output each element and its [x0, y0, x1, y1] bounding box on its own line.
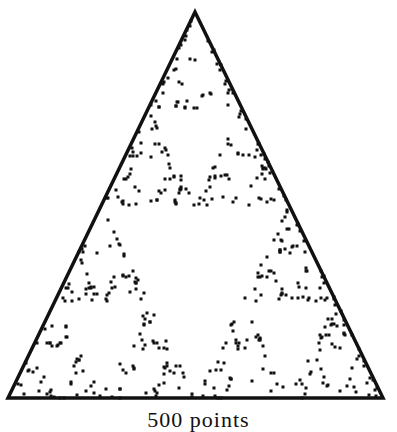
point: [270, 372, 273, 375]
point: [265, 168, 268, 171]
point: [76, 394, 79, 397]
point: [225, 342, 228, 345]
point: [132, 270, 135, 273]
point: [319, 334, 322, 337]
point: [270, 390, 273, 393]
point: [217, 361, 220, 364]
point: [319, 349, 322, 352]
point: [175, 105, 178, 108]
point: [270, 198, 273, 201]
point: [220, 369, 223, 372]
point: [140, 142, 143, 145]
point: [297, 297, 300, 300]
point: [96, 252, 99, 255]
point: [276, 383, 279, 386]
point: [158, 384, 161, 387]
point: [71, 300, 74, 303]
point: [138, 190, 141, 193]
point: [322, 382, 325, 385]
point: [315, 300, 318, 303]
point: [93, 293, 96, 296]
point: [222, 347, 225, 350]
point: [209, 176, 212, 179]
point: [62, 297, 65, 300]
point: [129, 291, 132, 294]
point: [326, 297, 329, 300]
point: [239, 113, 242, 116]
point: [336, 325, 339, 328]
point: [73, 365, 76, 368]
point: [226, 389, 229, 392]
point: [51, 345, 54, 348]
point: [349, 378, 352, 381]
point: [284, 216, 287, 219]
point: [299, 379, 302, 382]
point: [156, 199, 159, 202]
point: [210, 93, 213, 96]
point: [214, 175, 217, 178]
point: [180, 175, 183, 178]
point: [163, 373, 166, 376]
point: [135, 288, 138, 291]
point: [328, 334, 331, 337]
point: [128, 204, 131, 207]
point: [262, 345, 265, 348]
point: [134, 186, 137, 189]
point: [125, 372, 128, 375]
point: [295, 383, 298, 386]
point: [215, 369, 218, 372]
point: [128, 275, 131, 278]
point: [296, 245, 299, 248]
point: [125, 178, 128, 181]
point: [80, 259, 83, 262]
point: [164, 189, 167, 192]
point: [158, 190, 161, 193]
point: [327, 318, 330, 321]
point: [206, 204, 209, 207]
point: [307, 299, 310, 302]
point: [339, 390, 342, 393]
point: [179, 365, 182, 368]
point: [238, 116, 241, 119]
point: [65, 325, 68, 328]
point: [297, 282, 300, 285]
point: [304, 251, 307, 254]
point: [173, 175, 176, 178]
point: [193, 107, 196, 110]
point: [165, 340, 168, 343]
point: [305, 287, 308, 290]
point: [270, 270, 273, 273]
point: [113, 276, 116, 279]
point: [181, 83, 184, 86]
point: [107, 219, 110, 222]
point: [166, 348, 169, 351]
point: [82, 251, 85, 254]
point: [356, 358, 359, 361]
point: [158, 347, 161, 350]
point: [227, 104, 230, 107]
point: [167, 77, 170, 80]
point: [257, 276, 260, 279]
point: [235, 339, 238, 342]
point: [143, 323, 146, 326]
point: [122, 203, 125, 206]
point: [155, 125, 158, 128]
point: [209, 186, 212, 189]
point: [224, 83, 227, 86]
point: [289, 252, 292, 255]
point: [244, 347, 247, 350]
point: [96, 293, 99, 296]
point: [204, 383, 207, 386]
point: [178, 192, 181, 195]
point: [335, 313, 338, 316]
point: [320, 337, 323, 340]
point: [193, 204, 196, 207]
point: [374, 389, 377, 392]
point: [56, 345, 59, 348]
point: [90, 385, 93, 388]
point: [158, 106, 161, 109]
point: [194, 59, 197, 62]
point: [281, 220, 284, 223]
point: [117, 196, 120, 199]
